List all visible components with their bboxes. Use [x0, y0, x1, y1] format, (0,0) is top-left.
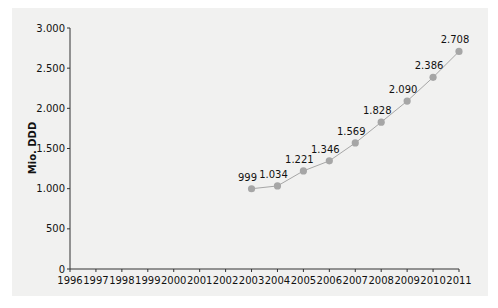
data-point-label: 2.708	[441, 34, 470, 45]
data-point-marker	[429, 74, 436, 81]
data-point-marker	[274, 182, 281, 189]
y-tick-label: 0	[59, 264, 65, 275]
data-point-label: 1.034	[259, 169, 288, 180]
y-tick-label: 1.500	[36, 143, 65, 154]
y-tick-label: 500	[46, 223, 65, 234]
data-point-marker	[404, 98, 411, 105]
data-point-marker	[455, 48, 462, 55]
x-tick-label: 2000	[161, 275, 186, 286]
data-point-label: 1.221	[285, 154, 314, 165]
y-tick-label: 2.000	[36, 103, 65, 114]
data-point-marker	[352, 139, 359, 146]
x-tick-label: 2003	[239, 275, 264, 286]
line-chart: 05001.0001.5002.0002.5003.00019961997199…	[0, 0, 498, 308]
x-tick-label: 1996	[57, 275, 82, 286]
data-point-marker	[326, 157, 333, 164]
x-tick-label: 2010	[420, 275, 445, 286]
data-point-marker	[300, 167, 307, 174]
data-series: 9991.0341.2211.3461.5691.8282.0902.3862.…	[238, 34, 469, 192]
x-tick-label: 2001	[187, 275, 212, 286]
y-tick-label: 3.000	[36, 23, 65, 34]
x-tick-label: 1998	[109, 275, 134, 286]
x-tick-label: 2006	[317, 275, 342, 286]
x-tick-label: 2011	[446, 275, 471, 286]
x-tick-label: 2007	[343, 275, 368, 286]
x-tick-label: 1997	[83, 275, 108, 286]
y-tick-label: 1.000	[36, 183, 65, 194]
y-axis-label: Mio. DDD	[27, 122, 38, 174]
x-tick-label: 2002	[213, 275, 238, 286]
y-tick-label: 2.500	[36, 63, 65, 74]
x-tick-label: 2004	[265, 275, 290, 286]
x-tick-label: 1999	[135, 275, 160, 286]
data-point-label: 1.828	[363, 105, 392, 116]
data-point-label: 2.090	[389, 84, 418, 95]
axes: 05001.0001.5002.0002.5003.00019961997199…	[36, 23, 471, 287]
x-tick-label: 2009	[394, 275, 419, 286]
data-point-label: 1.346	[311, 144, 340, 155]
data-point-marker	[378, 119, 385, 126]
x-tick-label: 2008	[368, 275, 393, 286]
data-point-marker	[248, 185, 255, 192]
data-point-label: 999	[238, 172, 257, 183]
data-point-label: 1.569	[337, 126, 366, 137]
x-tick-label: 2005	[291, 275, 316, 286]
data-point-label: 2.386	[415, 60, 444, 71]
